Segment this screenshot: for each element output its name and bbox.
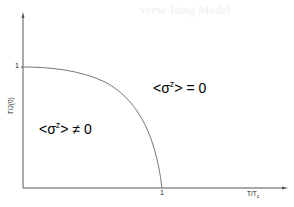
y-axis-arrow-icon: [22, 12, 25, 18]
x-axis-arrow-icon: [282, 187, 288, 190]
ordered-label-prefix: <σ: [39, 121, 56, 137]
disordered-label-prefix: <σ: [153, 80, 170, 96]
x-tick-label: 1: [160, 189, 164, 196]
disordered-region-label: <σz> = 0: [153, 79, 206, 96]
x-axis-label-main: T/T: [247, 190, 257, 197]
y-tick-label: 1: [15, 62, 19, 69]
y-axis-label: Γ/J(0): [7, 97, 14, 114]
disordered-label-suffix: > = 0: [174, 80, 206, 96]
ordered-region-label: <σz> ≠ 0: [39, 120, 92, 137]
x-axis-label: T/Tc: [247, 190, 259, 199]
x-axis-label-subscript: c: [257, 193, 260, 199]
ordered-label-suffix: > ≠ 0: [60, 121, 91, 137]
phase-diagram: [0, 0, 294, 207]
